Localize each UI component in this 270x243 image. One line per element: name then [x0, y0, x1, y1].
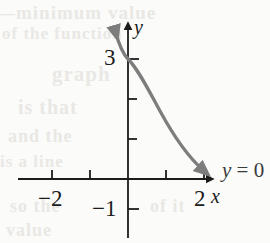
- y-tick-label--1: −1: [92, 196, 116, 222]
- y-axis-ticks: [128, 59, 139, 209]
- figure-canvas: —minimum value of the function graph is …: [0, 0, 270, 243]
- y-axis-label: y: [134, 16, 143, 39]
- x-axis-label: x: [211, 185, 220, 208]
- asymptote-label-variable: y: [222, 158, 231, 182]
- asymptote-label-rest: = 0: [231, 158, 264, 182]
- x-tick-label--2: −2: [38, 186, 62, 212]
- x-tick-label-2: 2: [194, 186, 206, 212]
- y-tick-label-3: 3: [104, 45, 116, 71]
- asymptote-label: y = 0: [222, 158, 264, 183]
